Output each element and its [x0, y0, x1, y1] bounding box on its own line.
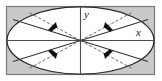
x-axis-label: x	[135, 26, 141, 38]
figure-container: y x	[0, 0, 162, 81]
ellipse-diagram: y x	[0, 0, 162, 81]
y-axis-label: y	[83, 8, 89, 20]
